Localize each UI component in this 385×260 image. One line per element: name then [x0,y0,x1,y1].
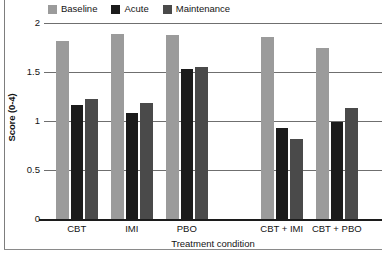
legend-label-baseline: Baseline [61,4,97,14]
x-tick-pbo: PBO [147,223,227,234]
bar-cbt-plus-pbo-baseline [316,48,329,219]
x-axis-title: Treatment condition [44,238,382,249]
x-axis-line [39,219,382,221]
bar-cbt-acute [71,105,84,219]
chart-legend: Baseline Acute Maintenance [48,2,230,16]
bar-pbo-acute [181,69,194,219]
bar-cbt-plus-imi-acute [276,128,289,219]
bar-cbt-plus-pbo-acute [331,122,344,219]
bar-cbt-maintenance [85,99,98,219]
legend-item-baseline: Baseline [48,4,97,14]
y-tick-0.5: 0.5 [6,165,40,175]
bar-cbt-baseline [56,41,69,219]
x-axis-tick-labels: CBTIMIPBOCBT + IMICBT + PBO [44,223,382,236]
y-tick-2: 2 [6,18,40,28]
y-tick-1.5: 1.5 [6,67,40,77]
bar-pbo-baseline [166,35,179,219]
y-tick-0: 0 [6,214,40,224]
bar-series-container [44,23,382,219]
plot-area [44,23,382,219]
bar-chart-figure: Baseline Acute Maintenance Score (0-4) 0… [0,0,385,260]
bar-imi-maintenance [140,103,153,219]
bar-pbo-maintenance [195,67,208,219]
y-tick-1: 1 [6,116,40,126]
x-tick-cbt-plus-pbo: CBT + PBO [297,223,377,234]
legend-label-maintenance: Maintenance [176,4,230,14]
legend-label-acute: Acute [124,4,148,14]
legend-swatch-acute [111,5,120,14]
bar-cbt-plus-imi-baseline [261,37,274,219]
bar-cbt-plus-imi-maintenance [290,139,303,219]
legend-swatch-maintenance [163,5,172,14]
y-axis-tick-labels: 00.511.52 [0,23,40,219]
bar-cbt-plus-pbo-maintenance [345,108,358,219]
legend-swatch-baseline [48,5,57,14]
legend-item-maintenance: Maintenance [163,4,230,14]
figure-bottom-border [4,249,382,250]
bar-imi-baseline [111,34,124,219]
bar-imi-acute [126,113,139,219]
legend-item-acute: Acute [111,4,148,14]
